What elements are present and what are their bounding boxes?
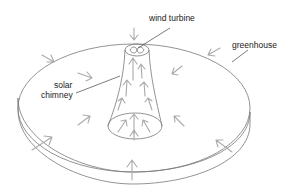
solar-chimney [108,44,162,139]
airflow-arrows [32,28,232,180]
solar-chimney-leader [76,76,120,93]
wind-turbine-icon [130,47,144,53]
solar-chimney-label-line1: solar [54,80,73,90]
wind-turbine-label: wind turbine [148,13,195,23]
solar-updraft-tower-diagram: wind turbine greenhouse solar chimney [0,0,295,192]
greenhouse-label: greenhouse [232,40,277,50]
greenhouse-leader [232,50,248,62]
solar-chimney-label-line2: chimney [41,90,73,100]
